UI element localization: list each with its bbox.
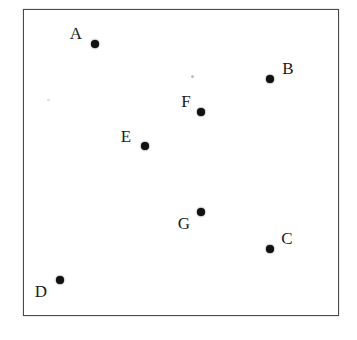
data-point-b	[266, 75, 274, 83]
data-point-f	[197, 108, 205, 116]
scan-speck-2	[47, 99, 50, 101]
point-label-g: G	[178, 215, 190, 232]
point-label-c: C	[281, 230, 293, 247]
point-label-b: B	[282, 60, 294, 77]
figure-canvas: ABCDEFG	[0, 0, 357, 340]
point-label-e: E	[121, 128, 132, 145]
data-point-d	[56, 276, 64, 284]
data-point-e	[141, 142, 149, 150]
point-label-d: D	[35, 283, 47, 300]
scan-speck-1	[191, 75, 194, 78]
data-point-c	[266, 245, 274, 253]
plot-frame	[23, 9, 339, 316]
point-label-f: F	[181, 93, 191, 110]
point-label-a: A	[70, 25, 82, 42]
data-point-g	[197, 208, 205, 216]
data-point-a	[91, 40, 99, 48]
